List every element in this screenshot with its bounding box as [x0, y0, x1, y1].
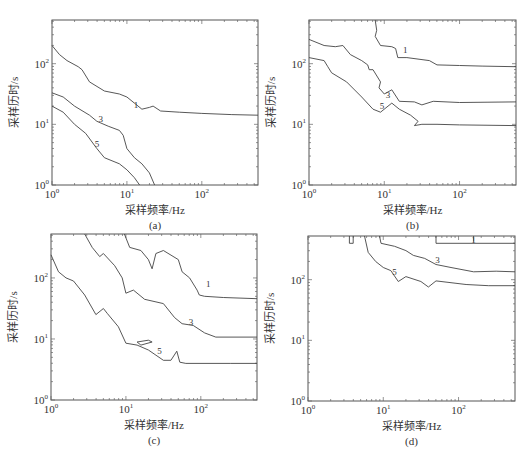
x-axis-label: 采样频率/Hz	[382, 419, 442, 432]
x-tick-label: 102	[451, 403, 466, 416]
x-tick-label: 100	[301, 403, 316, 416]
y-tick-label: 102	[291, 273, 306, 286]
contour-label: 5	[392, 267, 397, 277]
contour-line-3	[380, 236, 516, 272]
axes-frame	[308, 236, 515, 401]
y-tick-label: 101	[291, 333, 306, 346]
contour-line-small-loop	[349, 236, 353, 243]
x-tick-label: 101	[376, 403, 391, 416]
y-axis-label: 采样历时/s	[263, 293, 276, 344]
contour-label: 3	[435, 255, 440, 265]
panel-caption: (d)	[405, 435, 418, 448]
chart-d: 100100101101102102采样频率/Hz采样历时/s(d)135	[0, 0, 532, 459]
